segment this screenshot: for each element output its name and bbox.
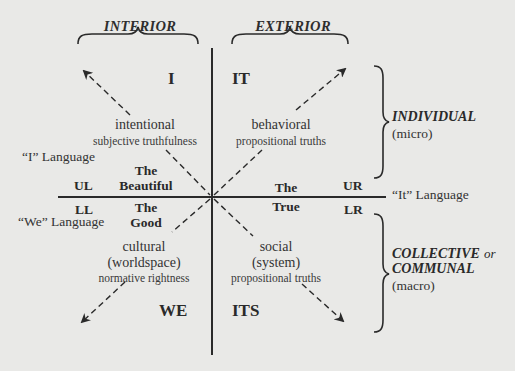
row-header-collective-sub: (macro) [392,279,435,293]
value-good-line2: Good [130,216,162,230]
arrow-upper-left [84,71,130,115]
row-header-collective: COLLECTIVE or [392,245,495,261]
i-language-label: “I” Language [22,150,95,164]
it-language-label: “It” Language [392,188,469,202]
row-header-individual: INDIVIDUAL [392,110,476,124]
pronoun-it: IT [232,70,250,87]
arrow-lower-left [82,282,125,322]
four-quadrant-diagram: INTERIOR EXTERIOR I IT WE ITS intentiona… [0,0,515,371]
lr-subtitle: propositional truths [231,273,321,285]
lr-title2: (system) [252,256,300,270]
brace-individual [374,66,389,178]
row-header-communal: COMMUNAL [392,262,474,276]
we-language-label: “We” Language [18,215,104,229]
header-exterior: EXTERIOR [255,19,331,34]
ur-title: behavioral [251,118,310,132]
code-lr: LR [344,203,363,217]
row-header-individual-sub: (micro) [392,127,432,141]
value-beautiful-line1: The [135,164,158,178]
header-interior: INTERIOR [104,19,177,34]
ll-title2: (worldspace) [107,256,180,270]
pronoun-its: ITS [232,302,259,319]
value-beautiful-line2: Beautiful [119,179,172,193]
code-ul: UL [74,179,93,193]
code-ur: UR [343,179,363,193]
ll-title: cultural [123,240,166,254]
arrow-upper-right [296,69,345,110]
value-true-line2: True [272,200,300,214]
code-ll: LL [75,203,93,217]
brace-collective [374,214,389,332]
value-true-line1: The [275,181,298,195]
ll-subtitle: normative rightness [98,273,189,285]
ur-subtitle: propositional truths [236,136,326,148]
lr-title: social [260,240,293,254]
pronoun-we: WE [159,302,187,319]
ul-subtitle: subjective truthfulness [93,136,197,148]
arrow-lower-right [302,284,343,321]
collective-or: or [484,246,496,261]
value-good-line1: The [135,201,158,215]
collective-label: COLLECTIVE [392,246,480,261]
pronoun-i: I [168,70,175,87]
ul-title: intentional [115,118,175,132]
